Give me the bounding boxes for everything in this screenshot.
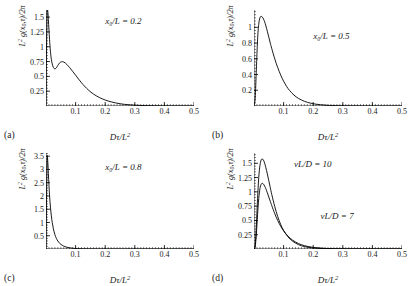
- panel-c-xtick-label: 0.2: [100, 250, 110, 259]
- panel-d-letter: (d): [212, 273, 223, 283]
- panel-b-ytick-label: 0.8: [242, 39, 252, 48]
- panel-c-ytick-label: 2.5: [34, 178, 44, 187]
- panel-c-xlabel: Dτ/L2: [46, 274, 194, 285]
- panel-a-letter: (a): [4, 130, 15, 140]
- panel-a-ytick-label: 0.5: [34, 72, 44, 81]
- panel-a-ytick-label: 1.5: [34, 13, 44, 22]
- panel-d-ytick-label: 0.5: [242, 216, 252, 225]
- panel-b-xtick-label: 0.1: [279, 107, 289, 116]
- panel-c-ytick-label: 3: [40, 165, 44, 174]
- panel-c-ylabel-wrap: L2 g(x0,τ)/2π: [10, 153, 22, 249]
- panel-c-xtick-label: 0.1: [71, 250, 81, 259]
- panel-c-ytick-label: 0.5: [34, 231, 44, 240]
- panel-d-ytick-label: 1.5: [242, 159, 252, 168]
- panel-a-ylabel: L2 g(x0,τ)/2π: [14, 0, 26, 74]
- panel-a: 0.250.50.7511.251.5 L2 g(x0,τ)/2π 0.10.2…: [0, 0, 207, 143]
- panel-a-annotation: x₀/L = 0.2: [105, 16, 141, 26]
- panel-d-xtick-label: 0.3: [338, 250, 348, 259]
- panel-a-ytick-label: 0.75: [30, 57, 44, 66]
- panel-c-xtick-label: 0.4: [159, 250, 169, 259]
- panel-c-annotation: x₀/L = 0.8: [105, 162, 141, 172]
- panel-b-xtick-label: 0.2: [308, 107, 318, 116]
- panel-b-xtick-labels: 0.10.20.30.40.5: [254, 107, 402, 119]
- panel-a-xlabel: Dτ/L2: [46, 131, 194, 142]
- panel-a-xtick-label: 0.1: [71, 107, 81, 116]
- panel-b-ytick-label: 1: [248, 23, 252, 32]
- panel-c-ytick-label: 2: [40, 192, 44, 201]
- panel-a-xtick-labels: 0.10.20.30.40.5: [46, 107, 194, 119]
- panel-a-xtick-label: 0.3: [130, 107, 140, 116]
- panel-c-xtick-label: 0.5: [189, 250, 199, 259]
- panel-c-ytick-label: 1: [40, 218, 44, 227]
- panel-b-xlabel: Dτ/L2: [254, 131, 402, 142]
- panel-b-xtick-label: 0.4: [367, 107, 377, 116]
- panel-d-xtick-label: 0.4: [367, 250, 377, 259]
- panel-c-ytick-label: 3.5: [34, 152, 44, 161]
- panel-a-ytick-label: 1.25: [30, 27, 44, 36]
- panel-a-xtick-label: 0.2: [100, 107, 110, 116]
- panel-b-plot-area: [254, 10, 402, 106]
- panel-d-ytick-label: 1: [248, 187, 252, 196]
- panel-a-ytick-label: 1: [40, 42, 44, 51]
- panel-b-xtick-label: 0.3: [338, 107, 348, 116]
- panel-b-ylabel-wrap: L2 g(x0,τ)/2π: [218, 10, 230, 106]
- panel-b-annotation: x₀/L = 0.5: [313, 31, 349, 41]
- panel-c-ylabel: L2 g(x0,τ)/2π: [14, 121, 26, 217]
- panel-d-ytick-label: 0.25: [238, 230, 252, 239]
- panel-a-ytick-label: 0.25: [30, 87, 44, 96]
- panel-d-ylabel-wrap: L2 g(x0,τ)/2π: [218, 153, 230, 249]
- panel-d-ytick-label: 0.75: [238, 202, 252, 211]
- panel-b: 0.20.40.60.81 L2 g(x0,τ)/2π 0.10.20.30.4…: [208, 0, 415, 143]
- panel-c-xtick-labels: 0.10.20.30.40.5: [46, 250, 194, 262]
- panel-b-ylabel: L2 g(x0,τ)/2π: [222, 0, 234, 74]
- panel-b-ytick-label: 0.4: [242, 70, 252, 79]
- panel-d-ylabel: L2 g(x0,τ)/2π: [222, 121, 234, 217]
- panel-b-ytick-label: 0.6: [242, 54, 252, 63]
- panel-a-xtick-label: 0.4: [159, 107, 169, 116]
- panel-d: 0.250.50.7511.251.5 L2 g(x0,τ)/2π 0.10.2…: [208, 143, 415, 286]
- panel-c-xtick-label: 0.3: [130, 250, 140, 259]
- panel-b-svg: [254, 10, 402, 106]
- panel-c-ytick-label: 1.5: [34, 205, 44, 214]
- panel-a-xtick-label: 0.5: [189, 107, 199, 116]
- figure-four-panel-fpt-density: 0.250.50.7511.251.5 L2 g(x0,τ)/2π 0.10.2…: [0, 0, 415, 286]
- panel-d-curve-label: vL/D = 10: [294, 159, 332, 169]
- panel-c-letter: (c): [4, 273, 15, 283]
- panel-d-curve-label: vL/D = 7: [321, 211, 354, 221]
- panel-c: 0.511.522.533.5 L2 g(x0,τ)/2π 0.10.20.30…: [0, 143, 207, 286]
- panel-d-ytick-label: 1.25: [238, 173, 252, 182]
- panel-d-xtick-label: 0.5: [397, 250, 407, 259]
- panel-b-xtick-label: 0.5: [397, 107, 407, 116]
- panel-a-ylabel-wrap: L2 g(x0,τ)/2π: [10, 10, 22, 106]
- panel-d-xlabel: Dτ/L2: [254, 274, 402, 285]
- panel-d-xtick-label: 0.1: [279, 250, 289, 259]
- panel-d-xtick-labels: 0.10.20.30.40.5: [254, 250, 402, 262]
- panel-d-xtick-label: 0.2: [308, 250, 318, 259]
- panel-b-ytick-label: 0.2: [242, 86, 252, 95]
